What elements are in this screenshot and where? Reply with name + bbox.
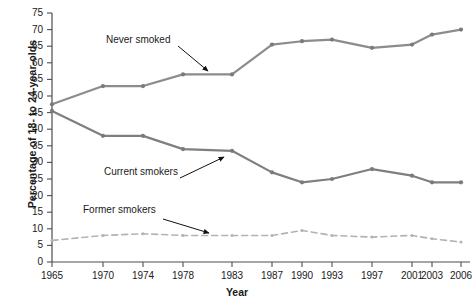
- annotation-former-smokers: Former smokers: [83, 204, 156, 215]
- y-tick-label: 45: [17, 107, 43, 118]
- data-point: [331, 234, 334, 237]
- y-tick-label: 55: [17, 73, 43, 84]
- x-tick-label: 1983: [221, 270, 243, 281]
- x-tick-label: 1974: [132, 270, 154, 281]
- data-point: [300, 39, 304, 43]
- annotation-never-smoked: Never smoked: [106, 34, 170, 45]
- never-smoked-arrow: [178, 46, 208, 71]
- data-point: [410, 42, 414, 46]
- y-tick-label: 0: [17, 256, 43, 267]
- series-line-former-smokers: [52, 230, 461, 242]
- data-point: [230, 72, 234, 76]
- x-tick-label: 1970: [92, 270, 114, 281]
- data-point: [101, 84, 105, 88]
- x-tick-label: 1965: [41, 270, 63, 281]
- y-tick-label: 20: [17, 190, 43, 201]
- data-point: [459, 28, 463, 32]
- data-point: [371, 236, 374, 239]
- y-tick-label: 75: [17, 7, 43, 18]
- y-axis-ticks: [47, 13, 52, 262]
- x-tick-label: 2001: [401, 270, 423, 281]
- x-axis-title: Year: [0, 286, 474, 298]
- x-tick-label: 1978: [172, 270, 194, 281]
- y-tick-label: 35: [17, 140, 43, 151]
- data-point: [431, 237, 434, 240]
- data-point: [182, 234, 185, 237]
- y-tick-label: 5: [17, 239, 43, 250]
- data-point: [141, 84, 145, 88]
- data-point: [300, 180, 304, 184]
- y-tick-label: 40: [17, 123, 43, 134]
- data-point: [181, 72, 185, 76]
- data-point: [101, 134, 105, 138]
- y-tick-label: 50: [17, 90, 43, 101]
- x-tick-label: 1987: [261, 270, 283, 281]
- data-point: [370, 46, 374, 50]
- data-point: [231, 234, 234, 237]
- data-point: [270, 42, 274, 46]
- x-axis-ticks: [52, 262, 461, 267]
- data-point: [410, 174, 414, 178]
- data-point: [460, 241, 463, 244]
- data-point: [411, 234, 414, 237]
- y-tick-label: 15: [17, 206, 43, 217]
- x-tick-label: 1993: [321, 270, 343, 281]
- plot-area: [0, 0, 474, 306]
- y-tick-label: 70: [17, 24, 43, 35]
- data-point: [459, 180, 463, 184]
- y-tick-label: 25: [17, 173, 43, 184]
- data-point: [51, 239, 54, 242]
- data-point: [181, 147, 185, 151]
- x-tick-label: 1997: [361, 270, 383, 281]
- data-point: [301, 229, 304, 232]
- data-point: [370, 167, 374, 171]
- data-point: [330, 177, 334, 181]
- x-tick-label: 2006: [450, 270, 472, 281]
- data-point: [50, 102, 54, 106]
- data-point: [270, 170, 274, 174]
- data-point: [230, 149, 234, 153]
- data-point: [271, 234, 274, 237]
- y-tick-label: 65: [17, 40, 43, 51]
- y-tick-label: 30: [17, 156, 43, 167]
- x-tick-label: 2003: [421, 270, 443, 281]
- former-smokers-arrow: [163, 219, 209, 233]
- y-tick-label: 10: [17, 223, 43, 234]
- data-point: [330, 37, 334, 41]
- data-point: [102, 234, 105, 237]
- line-chart: Percentage of 18- to 24-year-olds Year 0…: [0, 0, 474, 306]
- y-tick-label: 60: [17, 57, 43, 68]
- data-point: [141, 134, 145, 138]
- data-point: [50, 109, 54, 113]
- current-smokers-arrow: [180, 157, 224, 178]
- data-point: [430, 180, 434, 184]
- data-point: [142, 232, 145, 235]
- x-tick-label: 1990: [291, 270, 313, 281]
- annotation-current-smokers: Current smokers: [104, 166, 178, 177]
- data-point: [430, 32, 434, 36]
